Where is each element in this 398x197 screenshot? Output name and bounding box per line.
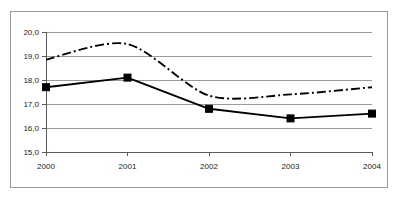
x-axis-tick-labels: 20002001200220032004 (37, 162, 381, 171)
line-chart: 20,019,018,017,016,015,0 200020012002200… (0, 0, 398, 197)
x-axis-ticks (46, 152, 372, 156)
y-axis-tick-label: 19,0 (23, 52, 39, 61)
x-axis-tick-label: 2000 (37, 162, 55, 171)
y-axis-tick-labels: 20,019,018,017,016,015,0 (23, 28, 39, 157)
data-point-marker (43, 84, 50, 91)
y-axis-tick-label: 18,0 (23, 76, 39, 85)
chart-container: 20,019,018,017,016,015,0 200020012002200… (0, 0, 398, 197)
data-point-marker (369, 110, 376, 117)
x-axis-tick-label: 2004 (363, 162, 381, 171)
x-axis-tick-label: 2002 (200, 162, 218, 171)
data-point-marker (124, 74, 131, 81)
y-axis-ticks (42, 32, 46, 152)
y-axis-tick-label: 16,0 (23, 124, 39, 133)
y-axis-tick-label: 17,0 (23, 100, 39, 109)
data-point-marker (287, 115, 294, 122)
series-dash-dot-line (46, 43, 372, 99)
gridlines (46, 32, 372, 128)
x-axis-tick-label: 2003 (282, 162, 300, 171)
x-axis-tick-label: 2001 (119, 162, 137, 171)
y-axis-tick-label: 20,0 (23, 28, 39, 37)
y-axis-tick-label: 15,0 (23, 148, 39, 157)
data-point-marker (206, 105, 213, 112)
